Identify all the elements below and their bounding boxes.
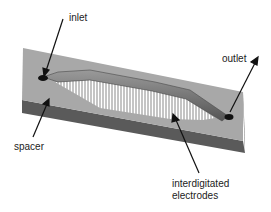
inlet-label: inlet bbox=[69, 12, 87, 24]
electrodes-label-line2: electrodes bbox=[172, 190, 229, 202]
electrodes-label: interdigitated electrodes bbox=[172, 178, 229, 202]
device-diagram bbox=[0, 0, 271, 212]
inlet-port bbox=[38, 75, 48, 81]
outlet-arrowhead-icon bbox=[251, 57, 258, 65]
outlet-label: outlet bbox=[222, 53, 246, 65]
spacer-label: spacer bbox=[14, 141, 44, 153]
outlet-port bbox=[225, 114, 234, 120]
electrodes-label-line1: interdigitated bbox=[172, 178, 229, 190]
